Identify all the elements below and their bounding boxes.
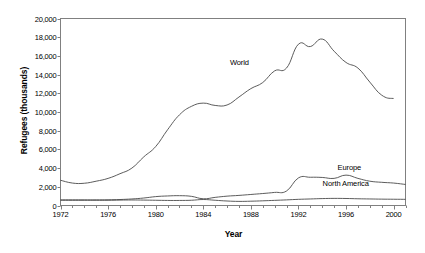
- y-tick-label: 6,000: [13, 145, 57, 154]
- y-tick-label: 14,000: [13, 71, 57, 80]
- y-tick-label: 8,000: [13, 127, 57, 136]
- x-tick-label: 2000: [377, 210, 411, 219]
- x-tick-label: 1980: [139, 210, 173, 219]
- y-tick-label: 16,000: [13, 52, 57, 61]
- x-tick-label: 1972: [44, 210, 78, 219]
- series-label-north-america: North America: [323, 179, 369, 188]
- series-label-world: World: [230, 58, 249, 67]
- y-tick-label: 12,000: [13, 89, 57, 98]
- x-tick-label: 1988: [234, 210, 268, 219]
- x-axis-title: Year: [60, 229, 407, 239]
- x-tick-label: 1996: [329, 210, 363, 219]
- series-label-europe: Europe: [338, 163, 362, 172]
- y-tick-label: 2,000: [13, 183, 57, 192]
- x-axis-ticks: [62, 206, 407, 210]
- y-tick-label: 10,000: [13, 108, 57, 117]
- y-tick-label: 20,000: [13, 15, 57, 24]
- y-tick-label: 18,000: [13, 33, 57, 42]
- chart-container: Refugees (thousands) Year 02,0004,0006,0…: [0, 0, 425, 253]
- x-tick-label: 1992: [281, 210, 315, 219]
- x-tick-label: 1976: [91, 210, 125, 219]
- x-tick-label: 1984: [186, 210, 220, 219]
- y-tick-label: 4,000: [13, 164, 57, 173]
